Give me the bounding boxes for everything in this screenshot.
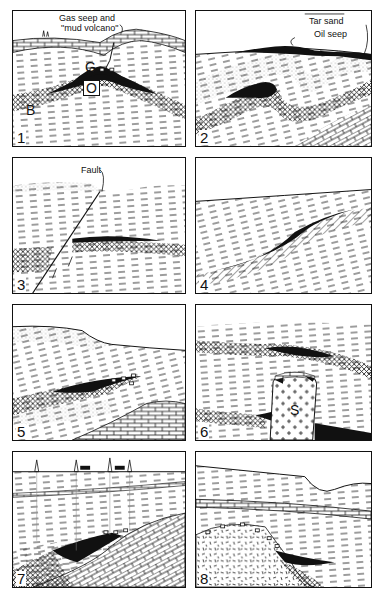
panel-8-igneous-contact-trap: 8	[195, 451, 372, 588]
panel-4-pinchout-trap: 4	[195, 157, 372, 294]
panel-5-unconformity-trap: 5	[12, 304, 186, 441]
gas-seep-label: Gas seep and	[59, 13, 115, 23]
panel-number: 3	[16, 277, 26, 292]
tar-sand-label: Tar sand	[309, 16, 344, 26]
panel-6-salt-dome-trap: S 6	[195, 304, 372, 441]
panel-number: 7	[16, 571, 26, 586]
panel-number: 6	[199, 424, 209, 439]
salt-label: S	[290, 403, 299, 417]
panel-1-anticline-trap: Gas seep and "mud volcano" G O B 1	[12, 10, 186, 147]
panel-number: 5	[16, 424, 26, 439]
salt-dome-cross-section	[196, 305, 371, 440]
panel-2-tar-sand-seep: Tar sand Oil seep 2	[195, 10, 372, 147]
brine-zone-label: B	[26, 103, 35, 117]
gas-zone-label: G	[85, 60, 96, 74]
stratigraphic-trap-cross-section	[196, 158, 371, 293]
oil-seep-label: Oil seep	[314, 29, 347, 39]
panel-number: 2	[199, 130, 209, 145]
mud-volcano-label: "mud volcano"	[61, 23, 118, 33]
panel-number: 8	[199, 571, 209, 586]
panel-number: 4	[199, 277, 209, 292]
lens-trap-cross-section	[13, 305, 185, 440]
fault-trap-cross-section	[13, 158, 185, 293]
panel-7-reef-trap: 7	[12, 451, 186, 588]
fault-label: Fault	[81, 165, 101, 175]
oil-zone-label: O	[83, 80, 100, 96]
panel-number: 1	[16, 130, 26, 145]
igneous-intrusion-cross-section	[196, 452, 371, 587]
buried-reef-cross-section	[13, 452, 185, 587]
panel-3-fault-trap: Fault 3	[12, 157, 186, 294]
